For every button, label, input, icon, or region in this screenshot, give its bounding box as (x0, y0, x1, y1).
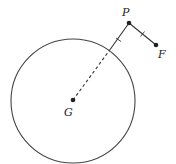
label-g: G (64, 106, 73, 119)
point-p (127, 21, 132, 26)
point-f (154, 43, 159, 48)
segment-gp-dashed (73, 51, 109, 100)
diagram-canvas: G P F (0, 0, 176, 164)
label-p: P (121, 6, 130, 19)
point-g (71, 98, 76, 103)
segment-gp-solid (109, 23, 129, 51)
label-f: F (157, 48, 166, 61)
